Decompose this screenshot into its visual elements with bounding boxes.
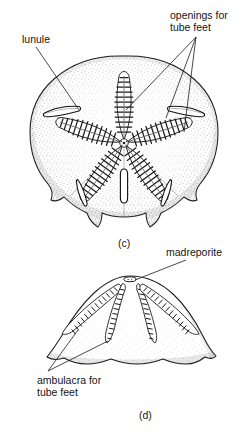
lunule-posterior-median-c xyxy=(120,169,127,203)
label-openings-line2: tube feet xyxy=(170,21,211,33)
label-ambulacra-line1: ambulacra for xyxy=(37,374,101,386)
label-madreporite: madreporite xyxy=(166,246,222,258)
label-openings-for-tube-feet: openings fortube feet xyxy=(170,9,228,33)
figure-root: lunule openings fortube feet madreporite… xyxy=(0,0,249,441)
apical-system-c xyxy=(120,139,128,147)
label-ambulacra-line2: tube feet xyxy=(37,386,78,398)
caption-panel-d: (d) xyxy=(139,409,152,421)
label-ambulacra-for-tube-feet: ambulacra fortube feet xyxy=(37,374,101,398)
label-openings-line1: openings for xyxy=(170,9,228,21)
madreporite-d xyxy=(124,277,136,282)
caption-panel-c: (c) xyxy=(118,237,130,249)
label-lunule: lunule xyxy=(22,33,50,45)
